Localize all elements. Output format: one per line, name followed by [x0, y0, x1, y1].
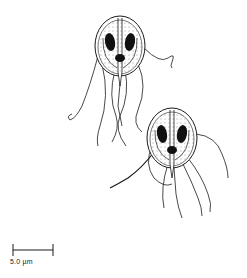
illustration — [0, 0, 247, 278]
organism-2 — [110, 108, 228, 218]
scale-bar-label: 5.0 µm — [10, 258, 33, 265]
scale-bar — [13, 244, 53, 256]
